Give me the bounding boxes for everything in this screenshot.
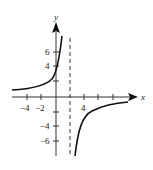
y-axis [52, 22, 60, 156]
x-tick-label: −4 [20, 103, 30, 113]
y-axis-label: y [53, 12, 58, 22]
left-branch-curve [12, 36, 62, 90]
graph: −4 −2 4 6 4 −4 −6 x y [0, 0, 153, 170]
y-tick-label: −6 [40, 136, 50, 146]
x-tick-label: 4 [81, 103, 86, 113]
x-tick-label: −2 [35, 103, 45, 113]
y-tick-label: 6 [45, 47, 50, 57]
y-tick-label: 4 [45, 61, 50, 71]
x-axis [12, 93, 138, 101]
x-axis-label: x [140, 92, 145, 102]
y-tick-label: −4 [40, 121, 50, 131]
